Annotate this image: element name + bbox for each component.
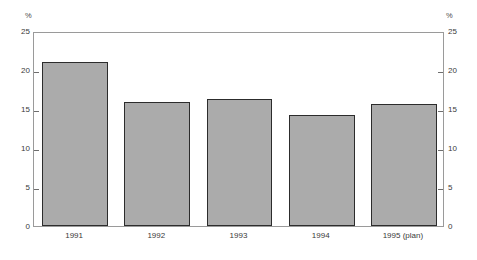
left-axis-tick-label: 20 (12, 67, 30, 75)
category-label: 1991 (33, 232, 115, 240)
bar (42, 62, 108, 226)
right-axis-tick-label: 15 (448, 106, 470, 114)
left-axis-tick (34, 72, 39, 73)
bar (289, 115, 355, 226)
right-axis-tick-label: 25 (448, 28, 470, 36)
bar (207, 99, 273, 226)
left-axis-tick-label: 5 (12, 184, 30, 192)
left-axis-unit-label: % (25, 12, 32, 20)
right-axis-tick (438, 150, 443, 151)
right-axis-tick (438, 189, 443, 190)
left-axis-tick-label: 10 (12, 145, 30, 153)
left-axis-tick (34, 111, 39, 112)
right-axis-tick (438, 72, 443, 73)
bar (124, 102, 190, 226)
right-axis-tick-label: 20 (448, 67, 470, 75)
left-axis-tick (34, 150, 39, 151)
category-label: 1992 (115, 232, 197, 240)
right-axis-unit-label: % (446, 12, 453, 20)
right-axis-tick-label: 5 (448, 184, 470, 192)
category-label: 1995 (plan) (362, 232, 444, 240)
plot-area (33, 32, 444, 227)
bar (371, 104, 437, 226)
bar-chart: % % 0510152025 0510152025 19911992199319… (0, 0, 477, 260)
right-axis-tick-label: 10 (448, 145, 470, 153)
left-axis-tick-label: 0 (12, 223, 30, 231)
right-axis-tick-label: 0 (448, 223, 470, 231)
right-axis-tick (438, 111, 443, 112)
category-label: 1994 (280, 232, 362, 240)
left-axis-tick-label: 15 (12, 106, 30, 114)
left-axis-tick-label: 25 (12, 28, 30, 36)
category-label: 1993 (197, 232, 279, 240)
left-axis-tick (34, 189, 39, 190)
